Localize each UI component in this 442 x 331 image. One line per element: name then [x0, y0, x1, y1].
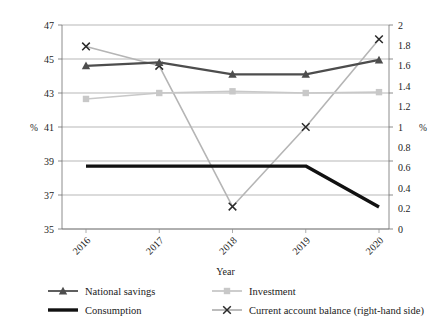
y-axis-right-tick-label: 1.8: [398, 40, 411, 51]
y-axis-tick-label: 35: [44, 224, 54, 235]
legend-item[interactable]: National savings: [48, 286, 155, 297]
y-axis-right-tick-label: 1: [398, 122, 403, 133]
y-axis-unit-right: %: [419, 123, 427, 133]
legend-label: Consumption: [85, 305, 142, 316]
y-axis-right-tick-label: 1.6: [398, 60, 411, 71]
y-axis-right-tick-label: 0.8: [398, 142, 411, 153]
series-line: [86, 166, 379, 207]
x-axis-tick-label: 2020: [363, 235, 385, 257]
legend-label: Current account balance (right-hand side…: [249, 305, 424, 317]
data-point-marker: [303, 90, 309, 96]
y-axis-tick-label: 37: [44, 190, 54, 201]
y-axis-tick-label: 39: [44, 156, 54, 167]
data-point-marker: [224, 288, 230, 294]
y-axis-right-tick-label: 1.4: [398, 81, 411, 92]
line-chart: 3537394143454700.20.40.60.811.21.41.61.8…: [0, 0, 442, 331]
y-axis-right-tick-label: 0.6: [398, 162, 411, 173]
data-point-marker: [229, 88, 235, 94]
x-axis-title: Year: [216, 266, 235, 277]
y-axis-tick-label: 45: [44, 54, 54, 65]
y-axis-tick-label: 41: [44, 122, 54, 133]
y-axis-right-tick-label: 1.2: [398, 101, 411, 112]
data-point-marker: [375, 35, 383, 43]
y-axis-right-tick-label: 2: [398, 20, 403, 31]
x-axis-tick-label: 2019: [290, 235, 312, 257]
legend-item[interactable]: Current account balance (right-hand side…: [212, 305, 424, 317]
y-axis-right-tick-label: 0: [398, 224, 403, 235]
series-consumption: [86, 166, 379, 207]
data-point-marker: [156, 90, 162, 96]
chart-container: 3537394143454700.20.40.60.811.21.41.61.8…: [0, 0, 442, 331]
y-axis-tick-label: 47: [44, 20, 54, 31]
legend-item[interactable]: Investment: [212, 286, 296, 297]
y-axis-right-tick-label: 0.2: [398, 203, 411, 214]
legend-label: National savings: [85, 286, 155, 297]
legend-label: Investment: [249, 286, 296, 297]
y-axis-tick-label: 43: [44, 88, 54, 99]
data-point-marker: [376, 89, 382, 95]
x-axis-tick-label: 2018: [217, 235, 239, 257]
x-axis-tick-label: 2016: [70, 235, 92, 257]
data-point-marker: [83, 96, 89, 102]
x-axis-tick-label: 2017: [144, 235, 166, 257]
legend-item[interactable]: Consumption: [48, 305, 142, 316]
data-point-marker: [229, 203, 237, 211]
y-axis-unit-left: %: [30, 123, 38, 133]
y-axis-right-tick-label: 0.4: [398, 183, 411, 194]
